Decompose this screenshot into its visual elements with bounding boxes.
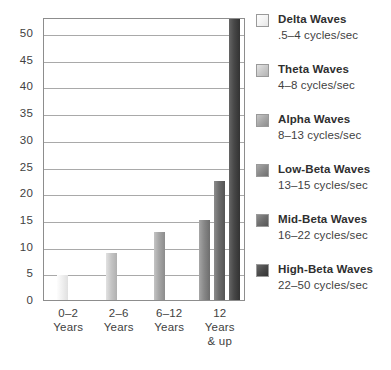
legend-swatch-icon xyxy=(256,14,269,27)
legend-series-name: Low-Beta Waves xyxy=(278,162,370,176)
legend-series-name: Theta Waves xyxy=(278,62,349,76)
legend-swatch-icon xyxy=(256,64,269,77)
x-axis-label-line: Years xyxy=(144,320,195,334)
gridline xyxy=(44,115,244,116)
bar xyxy=(106,253,117,300)
y-axis-tick-label: 40 xyxy=(20,82,33,94)
y-axis-tick-label: 35 xyxy=(20,108,33,120)
bar xyxy=(229,18,240,300)
y-axis-tick-label: 50 xyxy=(20,28,33,40)
legend-series-name: Delta Waves xyxy=(278,12,346,26)
plot-area xyxy=(43,18,245,301)
legend-series-range: 4–8 cycles/sec xyxy=(278,78,355,92)
legend-series-range: 13–15 cycles/sec xyxy=(278,178,368,192)
bar xyxy=(57,275,68,300)
legend-series-name: Alpha Waves xyxy=(278,112,350,126)
y-axis-tick-label: 20 xyxy=(20,188,33,200)
x-axis-label-line: & up xyxy=(195,334,246,348)
legend-series-range: .5–4 cycles/sec xyxy=(278,28,358,42)
x-axis-label-line: Years xyxy=(94,320,145,334)
x-axis-group-label: 12Years& up xyxy=(195,306,246,348)
y-axis-tick-label: 45 xyxy=(20,55,33,67)
gridline xyxy=(44,35,244,36)
legend-item[interactable]: Mid-Beta Waves16–22 cycles/sec xyxy=(256,212,391,256)
legend-item[interactable]: Low-Beta Waves13–15 cycles/sec xyxy=(256,162,391,206)
legend-series-range: 22–50 cycles/sec xyxy=(278,278,368,292)
y-axis-tick-label: 30 xyxy=(20,135,33,147)
y-axis-tick-label: 15 xyxy=(20,215,33,227)
brainwave-chart-figure: 05101520253035404550 0–2Years2–6Years6–1… xyxy=(0,0,391,370)
gridline xyxy=(44,142,244,143)
chart-block: 05101520253035404550 0–2Years2–6Years6–1… xyxy=(0,0,250,370)
gridline xyxy=(44,169,244,170)
y-axis-tick-label: 0 xyxy=(26,295,33,307)
legend-swatch-icon xyxy=(256,114,269,127)
legend-swatch-icon xyxy=(256,264,269,277)
y-axis: 05101520253035404550 xyxy=(0,18,38,301)
x-axis: 0–2Years2–6Years6–12Years12Years& up xyxy=(43,306,245,362)
x-axis-group-label: 0–2Years xyxy=(43,306,94,334)
x-axis-label-line: Years xyxy=(43,320,94,334)
x-axis-group-label: 6–12Years xyxy=(144,306,195,334)
x-axis-label-line: 2–6 xyxy=(94,306,145,320)
legend-swatch-icon xyxy=(256,214,269,227)
x-axis-label-line: 6–12 xyxy=(144,306,195,320)
x-axis-label-line: 12 xyxy=(195,306,246,320)
bar xyxy=(199,220,210,300)
x-axis-label-line: 0–2 xyxy=(43,306,94,320)
bar xyxy=(154,232,165,300)
legend-swatch-icon xyxy=(256,164,269,177)
chart-legend: Delta Waves.5–4 cycles/secTheta Waves4–8… xyxy=(256,12,391,322)
legend-series-range: 8–13 cycles/sec xyxy=(278,128,361,142)
legend-item[interactable]: Alpha Waves8–13 cycles/sec xyxy=(256,112,391,156)
legend-series-name: Mid-Beta Waves xyxy=(278,212,367,226)
gridline xyxy=(44,62,244,63)
bar xyxy=(214,181,225,300)
legend-series-name: High-Beta Waves xyxy=(278,262,373,276)
y-axis-tick-label: 5 xyxy=(26,269,33,281)
gridline xyxy=(44,88,244,89)
y-axis-tick-label: 10 xyxy=(20,242,33,254)
x-axis-label-line: Years xyxy=(195,320,246,334)
y-axis-tick-label: 25 xyxy=(20,162,33,174)
legend-item[interactable]: Theta Waves4–8 cycles/sec xyxy=(256,62,391,106)
legend-item[interactable]: Delta Waves.5–4 cycles/sec xyxy=(256,12,391,56)
legend-item[interactable]: High-Beta Waves22–50 cycles/sec xyxy=(256,262,391,306)
x-axis-group-label: 2–6Years xyxy=(94,306,145,334)
legend-series-range: 16–22 cycles/sec xyxy=(278,228,368,242)
